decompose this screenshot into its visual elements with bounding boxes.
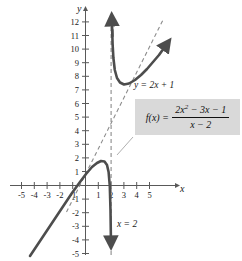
x-tick-label: -4: [31, 190, 39, 200]
formula-numerator: 2x2 − 3x − 1: [172, 103, 229, 117]
y-tick-label: 7: [75, 85, 79, 95]
x-tick-label: 4: [135, 190, 140, 200]
function-curve-left-branch: [30, 161, 111, 256]
y-tick-label: 5: [75, 112, 79, 122]
function-formula-callout: f(x) = 2x2 − 3x − 1 x − 2: [133, 97, 242, 137]
x-tick-label: 1: [96, 190, 100, 200]
y-tick-label: -5: [72, 249, 79, 259]
formula-denominator: x − 2: [187, 118, 214, 131]
formula-left-hand-side: f(x): [146, 112, 160, 123]
function-curve-right-branch: [112, 24, 164, 85]
y-tick-label: 11: [71, 31, 79, 41]
formula-fraction: 2x2 − 3x − 1 x − 2: [172, 103, 229, 130]
vertical-asymptote-label: x = 2: [116, 219, 137, 229]
y-tick-label: 4: [75, 126, 80, 136]
slant-asymptote-label: y = 2x + 1: [133, 80, 174, 90]
y-tick-label: 6: [75, 99, 79, 109]
x-tick-labels: -5 -4 -3 -2 -1 1 2 3 4 5: [18, 190, 152, 200]
y-tick-label: 9: [75, 58, 79, 68]
numerator-term-2: − 3x − 1: [188, 105, 226, 116]
y-tick-label: -3: [72, 221, 79, 231]
x-tick-label: -3: [44, 190, 51, 200]
x-tick-label: -5: [18, 190, 25, 200]
numerator-term-1: 2x: [175, 105, 184, 116]
x-tick-label: 3: [122, 190, 126, 200]
y-tick-label: 2: [75, 153, 79, 163]
callout-leader-line: [117, 137, 133, 155]
y-tick-label: -4: [72, 235, 80, 245]
y-tick-label: 3: [75, 139, 79, 149]
x-axis-label: x: [179, 183, 185, 194]
y-tick-label: 1: [75, 167, 79, 177]
y-tick-label: 12: [71, 17, 80, 27]
formula-equals-sign: =: [163, 112, 169, 123]
y-tick-label: 8: [75, 71, 79, 81]
x-tick-label: -2: [56, 190, 63, 200]
y-tick-label: -2: [72, 208, 79, 218]
function-graph-figure: -5 -4 -3 -2 -1 1 2 3 4 5 1 2 3 4 5 6 7 8…: [0, 0, 242, 261]
y-tick-label: 10: [71, 44, 80, 54]
y-tick-labels: 1 2 3 4 5 6 7 8 9 10 11 12 -1 -2 -3 -4 -…: [71, 17, 80, 259]
y-axis-label: y: [76, 3, 82, 14]
x-tick-label: 5: [147, 190, 151, 200]
